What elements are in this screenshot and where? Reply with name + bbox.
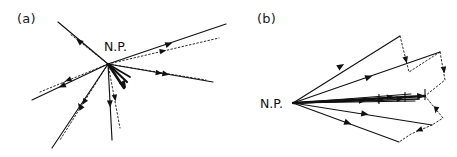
arrowhead-dotted-upper-right: [159, 48, 167, 55]
figure-container: (a) N.P.: [0, 0, 457, 157]
panel-a: (a) N.P.: [0, 0, 229, 157]
dotted-chevron-lower: [399, 125, 432, 142]
arrowhead-lower-outer: [343, 119, 352, 127]
arrowhead-upper-inner: [364, 73, 373, 81]
arrowhead-center-1: [417, 93, 425, 100]
arrowhead-upper-left: [74, 36, 83, 45]
panel-b-label: (b): [257, 11, 276, 26]
arrowhead-upper-right: [165, 40, 174, 48]
panel-a-label: (a): [17, 11, 36, 26]
panel-a-thick-bundle: [108, 64, 130, 90]
panel-b-nodal-point-label: N.P.: [260, 96, 283, 111]
solid-ray-upper-outer: [293, 36, 400, 103]
arrowhead-chevron-lower-right: [433, 106, 440, 114]
dotted-chevron-upper-right: [425, 52, 445, 96]
panel-b-ray-arrowheads: [336, 61, 373, 127]
panel-a-dotted-rays: [40, 34, 219, 140]
arrowhead-dotted-lower: [112, 94, 119, 102]
arrowhead-upper-outer: [336, 61, 346, 70]
arrowhead-lower-vertical: [107, 100, 113, 108]
arrowhead-chevron-lower: [415, 126, 423, 134]
panel-b: (b) N.P.: [229, 0, 457, 157]
arrowhead-chevron-upper-right: [441, 66, 448, 74]
arrowhead-lower-inner: [361, 110, 369, 117]
solid-ray-upper-left: [58, 22, 108, 64]
panel-a-nodal-point-label: N.P.: [104, 39, 127, 54]
dotted-chevron-lower-right: [425, 96, 443, 125]
panel-b-dotted-chevrons: [399, 36, 445, 142]
panel-b-solid-rays: [293, 36, 440, 142]
